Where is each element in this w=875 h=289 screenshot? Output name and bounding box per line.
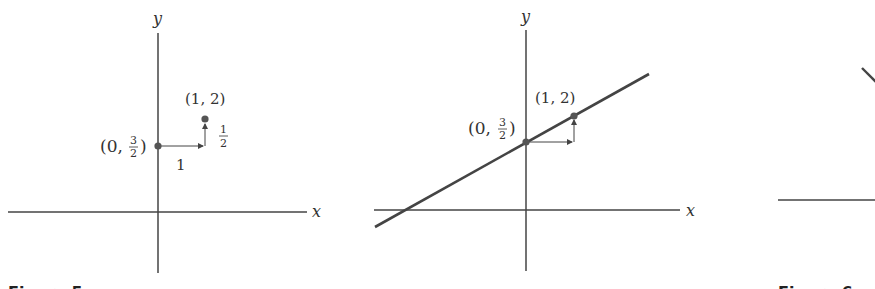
- x-axis-label: x: [686, 201, 695, 220]
- point-b-label: (1, 2): [535, 89, 575, 107]
- point-b: [201, 115, 208, 122]
- point-b: [570, 112, 577, 119]
- point-b-label: (1, 2): [185, 90, 225, 108]
- point-a-label-close: ): [140, 136, 147, 156]
- caption-left: Figure 5: [8, 283, 83, 289]
- point-a-frac-den: 2: [499, 129, 506, 142]
- graph-line: [375, 74, 649, 227]
- y-axis-label: y: [152, 9, 163, 28]
- point-a: [154, 142, 161, 149]
- figure-right-partial: [778, 68, 875, 200]
- figure-middle: y x (0, 3 2 ) (1, 2): [374, 7, 695, 271]
- point-a-label-open: (0,: [468, 118, 491, 138]
- point-a-frac-num: 3: [499, 116, 506, 129]
- point-a-label-open: (0,: [100, 136, 123, 156]
- run-label: 1: [176, 156, 186, 174]
- point-a-frac-num: 3: [130, 134, 137, 147]
- rise-den: 2: [220, 137, 227, 150]
- point-a: [522, 138, 529, 145]
- diagram-canvas: y x (0, 3 2 ) (1, 2) 1 1 2 y x (0, 3 2 )…: [0, 0, 875, 289]
- figure-left: y x (0, 3 2 ) (1, 2) 1 1 2: [8, 9, 321, 273]
- partial-line: [862, 68, 875, 82]
- rise-num: 1: [220, 123, 227, 136]
- x-axis-label: x: [312, 202, 321, 221]
- point-a-label-close: ): [509, 118, 516, 138]
- point-a-frac-den: 2: [130, 147, 137, 160]
- y-axis-label: y: [520, 7, 531, 26]
- caption-right: Figure 6: [778, 283, 853, 289]
